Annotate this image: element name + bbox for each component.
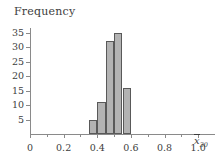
y-tick-label: 15 — [12, 85, 24, 96]
histogram-bars — [30, 25, 215, 135]
y-tick-label: 25 — [12, 56, 24, 67]
y-axis-title: Frequency — [14, 5, 75, 18]
histogram-bar — [97, 102, 105, 134]
x-tick-label: 0.4 — [90, 142, 105, 153]
histogram-bar — [114, 33, 122, 134]
x-tick-label: 0 — [27, 142, 33, 153]
x-bar-subscript: 30 — [200, 141, 208, 149]
plot-area: 5101520253035 00.20.40.60.81.0 — [30, 25, 215, 135]
histogram-bar — [106, 41, 114, 134]
y-tick-label: 5 — [18, 114, 24, 125]
x-tick-label: 0.2 — [56, 142, 71, 153]
histogram-bar — [123, 88, 131, 134]
x-axis-variable-label: x30 — [194, 135, 208, 149]
histogram-figure: Frequency 5101520253035 00.20.40.60.81.0… — [0, 0, 219, 164]
y-tick-label: 20 — [12, 70, 24, 81]
y-tick-label: 10 — [12, 99, 24, 110]
y-tick-label: 35 — [12, 27, 24, 38]
histogram-bar — [89, 120, 97, 134]
x-bar-symbol: x — [194, 135, 200, 146]
x-tick-label: 0.8 — [157, 142, 172, 153]
y-tick-label: 30 — [12, 41, 24, 52]
x-tick-label: 0.6 — [123, 142, 138, 153]
